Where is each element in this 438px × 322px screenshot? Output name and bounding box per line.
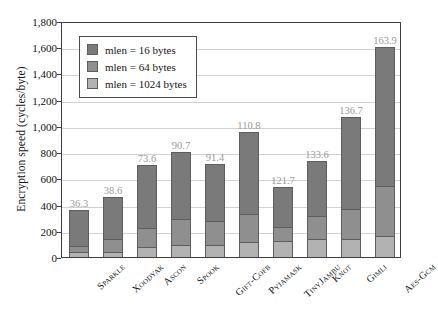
x-tick-label: Spook [195, 261, 221, 286]
x-tick-label: Sparkle [95, 261, 127, 292]
bar-segment-s16 [307, 161, 326, 216]
bar-segment-s64 [69, 246, 88, 253]
bar-value-label: 163.9 [373, 35, 397, 46]
legend-label: mlen = 16 bytes [105, 44, 176, 56]
legend-item[interactable]: mlen = 1024 bytes [87, 75, 187, 92]
bar-segment-s64 [239, 214, 258, 243]
bar-segment-s16 [375, 47, 394, 186]
bar-value-label: 136.7 [339, 105, 363, 116]
y-tick-label: 400 [1, 200, 57, 212]
y-tick-label: 1,800 [1, 16, 57, 28]
bar-segment-s1024 [307, 239, 326, 257]
legend-item[interactable]: mlen = 16 bytes [87, 41, 187, 58]
bar-spook[interactable]: 90.7 [171, 152, 190, 257]
bar-segment-s1024 [375, 236, 394, 257]
bar-segment-s64 [205, 221, 224, 245]
y-tick-label: 1,000 [1, 121, 57, 133]
bar-value-label: 38.6 [104, 185, 122, 196]
bar-segment-s1024 [137, 247, 156, 257]
x-tick-label: Gimli [364, 261, 389, 285]
bar-segment-s1024 [341, 239, 360, 257]
legend-item[interactable]: mlen = 64 bytes [87, 58, 187, 75]
bar-knot[interactable]: 133.6 [307, 161, 326, 257]
bar-value-label: 121.7 [271, 175, 295, 186]
y-tick-label: 200 [1, 226, 57, 238]
bar-segment-s64 [273, 227, 292, 241]
bar-value-label: 133.6 [305, 149, 329, 160]
x-tick-label: Aes-Gcm [402, 261, 438, 295]
bar-segment-s1024 [69, 252, 88, 257]
bar-segment-s1024 [205, 245, 224, 257]
bar-segment-s64 [341, 209, 360, 239]
bar-pyjamask[interactable]: 110.8 [239, 132, 258, 257]
bar-aes-gcm[interactable]: 163.9 [375, 47, 394, 257]
gridline [62, 102, 400, 103]
legend-swatch-icon [87, 44, 98, 55]
chart-legend: mlen = 16 bytesmlen = 64 bytesmlen = 102… [79, 36, 197, 98]
legend-label: mlen = 1024 bytes [105, 78, 187, 90]
bar-tinyjambu[interactable]: 121.7 [273, 187, 292, 257]
bar-segment-s16 [205, 164, 224, 222]
bar-value-label: 110.8 [237, 120, 260, 131]
y-tick-label: 0 [1, 252, 57, 264]
bar-xoodyak[interactable]: 38.6 [103, 197, 122, 257]
bar-sparkle[interactable]: 36.3 [69, 210, 88, 257]
bar-segment-s1024 [239, 242, 258, 257]
y-tick-label: 600 [1, 173, 57, 185]
bar-value-label: 90.7 [172, 140, 190, 151]
bar-segment-s16 [137, 165, 156, 228]
legend-swatch-icon [87, 78, 98, 89]
y-tick-mark [57, 258, 61, 259]
bar-segment-s16 [341, 117, 360, 209]
bar-segment-s64 [171, 219, 190, 245]
bar-segment-s1024 [103, 252, 122, 257]
bar-ascon[interactable]: 73.6 [137, 165, 156, 257]
y-tick-label: 1,600 [1, 42, 57, 54]
bar-segment-s1024 [273, 241, 292, 257]
bar-gift-cofb[interactable]: 91.4 [205, 164, 224, 257]
bar-segment-s64 [137, 228, 156, 248]
y-tick-label: 1,400 [1, 68, 57, 80]
y-tick-label: 800 [1, 147, 57, 159]
bar-segment-s1024 [171, 245, 190, 257]
bar-value-label: 73.6 [138, 153, 156, 164]
bar-segment-s64 [103, 239, 122, 252]
bar-segment-s16 [69, 210, 88, 245]
bar-value-label: 36.3 [70, 198, 88, 209]
bar-segment-s64 [307, 216, 326, 240]
legend-swatch-icon [87, 61, 98, 72]
y-axis-title: Encryption speed (cycles/byte) [15, 24, 27, 254]
bar-segment-s16 [103, 197, 122, 239]
legend-label: mlen = 64 bytes [105, 61, 176, 73]
y-tick-label: 1,200 [1, 95, 57, 107]
bar-value-label: 91.4 [206, 152, 224, 163]
x-tick-label: Gift-Cofb [233, 261, 272, 298]
bar-segment-s64 [375, 186, 394, 236]
x-tick-label: Ascon [161, 261, 188, 287]
x-tick-label: Pyjamask [266, 261, 303, 296]
bar-gimli[interactable]: 136.7 [341, 117, 360, 257]
bar-segment-s16 [239, 132, 258, 213]
bar-segment-s16 [273, 187, 292, 226]
bar-segment-s16 [171, 152, 190, 219]
